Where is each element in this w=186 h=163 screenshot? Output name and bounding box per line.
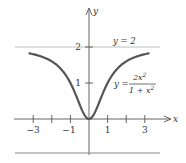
y-axis-label: y	[92, 6, 99, 16]
curve-label-fraction: 2x2 1 + x2	[129, 71, 156, 95]
x-tick-label: −1	[62, 125, 75, 135]
svg-text:2x2: 2x2	[132, 71, 147, 82]
asymptote-label: y = 2	[112, 36, 136, 46]
function-plot: −3 −1 1 3 1 2 x y y = 2 y = 2x2 1 + x2	[0, 0, 186, 163]
y-tick-label: 1	[75, 78, 81, 88]
x-tick-label: −3	[27, 125, 41, 135]
svg-text:1 + x2: 1 + x2	[129, 84, 154, 95]
curve-label-lhs: y =	[113, 79, 129, 89]
y-tick-label: 2	[75, 42, 81, 52]
x-tick-label: 1	[105, 125, 111, 135]
x-tick-label: 3	[142, 125, 148, 135]
x-axis-label: x	[173, 114, 178, 124]
